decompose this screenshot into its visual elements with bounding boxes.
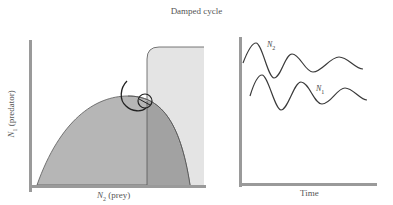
phase-plane-panel (29, 40, 206, 192)
y-axis-subscript: 1 (12, 129, 18, 132)
x-axis-text: (prey) (106, 190, 130, 200)
y-axis-label-predator: N1 (predator) (6, 84, 18, 144)
y-axis-left (29, 40, 32, 192)
figure: Damped cycle (0, 0, 393, 205)
series-n2-label: N2 (267, 40, 275, 51)
series-n2-subscript: 2 (272, 45, 275, 51)
x-axis-label-time: Time (300, 188, 319, 198)
series-n1-label: N1 (316, 84, 324, 95)
y-axis-text: (predator) (6, 90, 16, 128)
series-n1-line (250, 75, 367, 110)
diagram-canvas (0, 0, 393, 205)
x-axis-right (239, 183, 377, 186)
time-series-panel (239, 37, 377, 187)
x-axis-left (29, 185, 206, 188)
series-n2-line (243, 43, 363, 78)
x-axis-label-prey: N2 (prey) (97, 190, 130, 202)
y-axis-right (239, 37, 242, 187)
series-n1-subscript: 1 (321, 89, 324, 95)
y-axis-symbol: N (6, 132, 16, 138)
